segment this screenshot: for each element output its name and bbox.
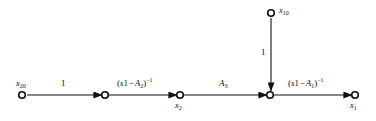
node-label-x2-subscript: 2 — [179, 105, 182, 111]
node-label-x1-hat: ˆx1 — [350, 101, 357, 110]
node-label-x1-subscript: 1 — [354, 105, 357, 111]
node-label-x20: x20 — [16, 79, 26, 88]
edge-gain-first-one: 1 — [61, 79, 66, 88]
signal-flow-diagram: x20 x10 ˆx2 ˆx1 1 (s1 − A2)−1 A3 (s1 − A… — [0, 0, 376, 121]
node-label-x2-hat: ˆx2 — [175, 101, 182, 110]
hat-accent-x1: ˆ — [351, 96, 354, 104]
node-label-x20-subscript: 20 — [20, 83, 26, 89]
node-label-x10-subscript: 10 — [283, 10, 289, 16]
node-label-x10: x10 — [279, 6, 289, 15]
edge-gain-sI-minus-A1-inverse: (s1 − A1)−1 — [288, 79, 324, 88]
edge-gain-A3: A3 — [219, 79, 228, 88]
edge-gain-sI-minus-A2-inverse: (s1 − A2)−1 — [117, 79, 153, 88]
hat-accent-x2: ˆ — [176, 96, 179, 104]
flow-graph-canvas — [0, 0, 376, 121]
node-mid — [102, 92, 109, 99]
edge-gain-vertical-one: 1 — [261, 48, 266, 57]
node-x10 — [268, 10, 275, 17]
node-junction — [267, 92, 274, 99]
node-x20 — [19, 92, 26, 99]
